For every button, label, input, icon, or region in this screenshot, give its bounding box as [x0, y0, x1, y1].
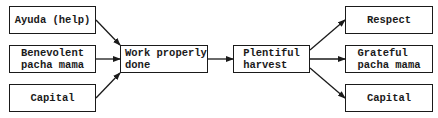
arrow-harvest-to-respect	[310, 20, 345, 50]
input-label-ayuda: Ayuda (help)	[15, 14, 91, 26]
arrow-ayuda-to-work	[96, 20, 120, 45]
input-box-ayuda: Ayuda (help)	[9, 6, 96, 34]
arrow-capital-to-work	[96, 73, 120, 98]
arrow-harvest-to-capital	[310, 68, 345, 98]
input-label-capital: Capital	[30, 92, 74, 104]
process-box-work: Work properly done	[120, 45, 208, 73]
output-label-grateful: Grateful pacha mama	[357, 47, 420, 71]
process-label: Work properly done	[125, 47, 207, 71]
output-box-respect: Respect	[345, 6, 433, 34]
input-box-benevolent: Benevolent pacha mama	[9, 45, 96, 73]
result-box-harvest: Plentiful harvest	[233, 45, 310, 73]
output-label-respect: Respect	[367, 14, 411, 26]
input-box-capital: Capital	[9, 84, 96, 112]
result-label: Plentiful harvest	[243, 47, 300, 71]
output-box-grateful: Grateful pacha mama	[345, 45, 433, 73]
output-box-capital: Capital	[345, 84, 433, 112]
output-label-capital: Capital	[367, 92, 411, 104]
input-label-benevolent: Benevolent pacha mama	[21, 47, 84, 71]
